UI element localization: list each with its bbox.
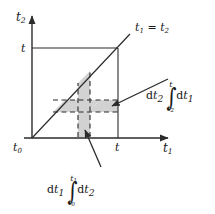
x-axis-label-sub: 1 [168, 147, 173, 156]
right-annotation-inner-sub: 1 [188, 94, 194, 105]
right-annotation-outer-d: d [146, 89, 153, 102]
integral-domain-figure: t2 t1 t0 t t t1 = t2 dt2 t ∫ t2 dt1 dt1 … [0, 0, 215, 214]
right-annotation-lower-limit-sub: 2 [171, 108, 174, 114]
right-annotation-inner-differential: dt1 [176, 90, 193, 103]
bottom-annotation-inner-differential: dt2 [77, 184, 94, 197]
x-axis-label: t1 [163, 142, 173, 156]
right-annotation-expression: dt2 t ∫ t2 dt1 [146, 84, 194, 110]
right-annotation-outer-differential: dt2 [146, 90, 163, 103]
bottom-annotation-expression: dt1 t1 ∫ t0 dt2 [47, 178, 95, 204]
y-axis-label: t2 [16, 11, 26, 25]
right-annotation-outer-sub: 2 [157, 94, 163, 105]
bottom-annotation-lower-limit-sub: 0 [72, 202, 75, 208]
diagonal-label: t1 = t2 [135, 22, 169, 34]
bottom-annotation-outer-d: d [47, 183, 54, 196]
y-axis-label-sub: 2 [21, 16, 26, 25]
right-annotation-integral-sign: t ∫ t2 [164, 84, 176, 110]
bottom-annotation-outer-differential: dt1 [47, 184, 64, 197]
x-tick-label: t [115, 142, 119, 153]
origin-label: t0 [13, 142, 22, 154]
diagonal-label-eq: = [144, 21, 160, 34]
bottom-annotation-outer-sub: 1 [58, 188, 64, 199]
right-annotation-lower-limit: t2 [167, 105, 174, 114]
bottom-annotation-integral-sign: t1 ∫ t0 [65, 178, 77, 204]
bottom-annotation-arrow [85, 130, 101, 167]
origin-label-sub: 0 [17, 146, 21, 155]
vertical-shaded-band [78, 71, 90, 137]
bottom-annotation-lower-limit: t0 [68, 199, 75, 208]
diagonal-label-rhs-sub: 2 [165, 26, 169, 35]
y-tick-label: t [21, 43, 25, 54]
bottom-annotation-inner-sub: 2 [89, 188, 95, 199]
